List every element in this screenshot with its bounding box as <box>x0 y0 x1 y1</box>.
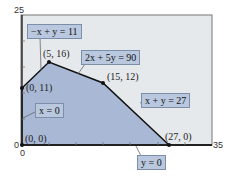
y-min-tick: 0 <box>14 140 19 150</box>
constraint-label-2x-plus-5y: 2x + 5y = 90 <box>81 50 140 65</box>
vertex-label-27-0: (27, 0) <box>165 131 192 143</box>
constraint-label-neg-x-plus-y: −x + y = 11 <box>27 24 82 39</box>
constraint-label-x-plus-y: x + y = 27 <box>141 93 190 108</box>
vertex-label-0-0: (0, 0) <box>25 133 47 145</box>
vertex-label-0-11: (0, 11) <box>26 82 52 94</box>
constraint-label-x-zero: x = 0 <box>35 103 64 118</box>
y-max-tick: 25 <box>14 5 24 15</box>
x-max-tick: 35 <box>213 140 223 150</box>
constraint-label-y-zero: y = 0 <box>137 155 166 170</box>
x-min-tick: 0 <box>20 148 25 158</box>
vertex-label-5-16: (5, 16) <box>43 48 70 60</box>
vertex-label-15-12: (15, 12) <box>107 71 139 83</box>
